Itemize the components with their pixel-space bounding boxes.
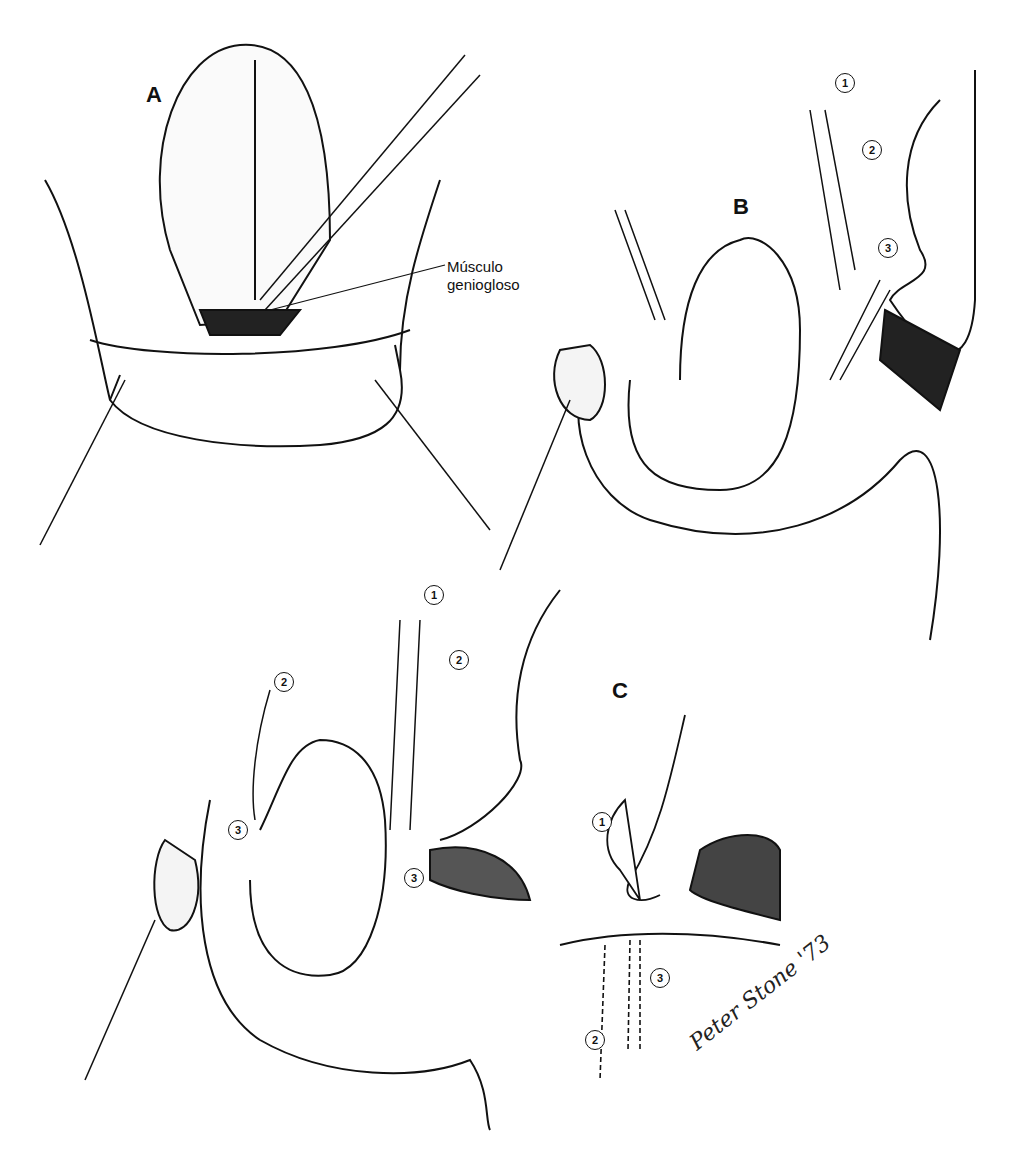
suture-marker-2: 2 (274, 672, 294, 692)
illustration-canvas (0, 0, 1014, 1151)
panel-c-drawing (560, 715, 780, 1080)
suture-marker-1: 1 (592, 812, 612, 832)
suture-marker-3: 3 (404, 868, 424, 888)
annotation-musculo: Músculo (447, 258, 503, 276)
panel-label-a: A (146, 82, 162, 108)
suture-marker-2: 2 (862, 140, 882, 160)
suture-marker-3: 3 (650, 968, 670, 988)
suture-marker-2: 2 (585, 1030, 605, 1050)
panel-b2-drawing (85, 590, 560, 1130)
suture-marker-1: 1 (424, 585, 444, 605)
suture-marker-3: 3 (228, 820, 248, 840)
annotation-geniogloso: geniogloso (447, 276, 520, 294)
suture-marker-1: 1 (835, 73, 855, 93)
panel-label-c: C (612, 678, 628, 704)
panel-label-b: B (733, 194, 749, 220)
panel-b-drawing (500, 70, 975, 640)
panel-a-drawing (40, 45, 490, 545)
suture-marker-3: 3 (878, 238, 898, 258)
suture-marker-2: 2 (449, 650, 469, 670)
